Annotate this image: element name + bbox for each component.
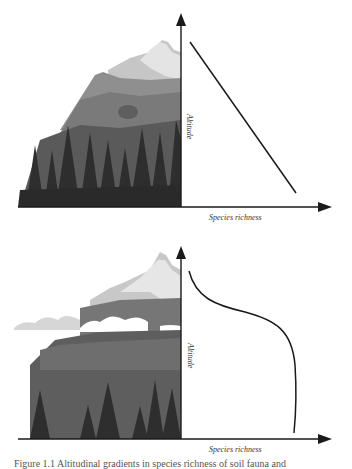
upper-panel: Altitude Species richness — [0, 0, 352, 230]
mountain-illustration-with-clouds — [14, 252, 181, 439]
lower-diagram — [0, 230, 352, 455]
lower-richness-curve — [189, 271, 296, 433]
upper-x-axis-label: Species richness — [209, 213, 262, 222]
mountain-illustration — [18, 40, 181, 207]
upper-diagram — [0, 0, 352, 230]
lower-panel: Altitude Species richness — [0, 230, 352, 455]
figure-caption: Figure 1.1 Altitudinal gradients in spec… — [14, 458, 286, 469]
lower-x-axis-label: Species richness — [209, 445, 262, 454]
upper-richness-line — [190, 42, 296, 193]
lower-y-axis-label: Altitude — [186, 343, 195, 368]
upper-y-axis-label: Altitude — [185, 114, 194, 139]
